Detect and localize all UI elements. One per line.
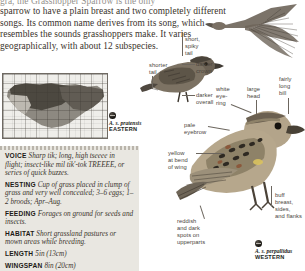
fact-text-wingspan: 8in (20cm) — [44, 262, 75, 270]
leader-yellow-bend-of-wing — [196, 153, 224, 154]
fact-label-length: LENGTH — [5, 250, 33, 257]
range-map — [2, 73, 108, 139]
subspecies-caption-eastern: A. s. pratensis EASTERN — [109, 112, 141, 133]
fact-voice: VOICESharp tik; long, high tseeee in fli… — [5, 152, 134, 178]
bird-field-guide-page: gra, the Grasshopper Sparrow is the only… — [0, 0, 305, 271]
label-shorter-tail: shorter tail — [149, 62, 167, 76]
fact-nesting: NESTINGCup of grass placed in clump of g… — [5, 181, 134, 207]
fact-wingspan: WINGSPAN8in (20cm) — [5, 262, 134, 271]
label-pale-eyebrow: pale eyebrow — [184, 122, 206, 136]
fact-habitat: HABITATShort grassland pastures or mown … — [5, 230, 134, 247]
globe-icon — [255, 240, 262, 247]
label-white-eye-ring: white eye- ring — [216, 86, 230, 107]
globe-icon — [109, 112, 116, 119]
leader-buff-breast — [271, 186, 272, 206]
fact-label-feeding: FEEDING — [5, 210, 36, 217]
label-reddish-dark-spots: reddish and dark spots on upperparts — [177, 218, 205, 246]
subspecies-region: EASTERN — [109, 126, 137, 132]
species-fact-panel: VOICESharp tik; long, high tseeee in fli… — [0, 146, 139, 271]
subspecies-caption-western: A. s. perpallidus WESTERN — [255, 240, 292, 261]
label-yellow-bend-of-wing: yellow at bend of wing — [168, 150, 188, 171]
leader-shorter-tail — [152, 76, 153, 89]
leader-darker-crown — [182, 64, 195, 65]
leader-fairly-long-bill — [288, 98, 289, 114]
fact-label-voice: VOICE — [5, 152, 27, 159]
fact-feeding: FEEDINGForages on ground for seeds and i… — [5, 210, 134, 227]
label-darker-crown: darker crown — [196, 61, 213, 75]
subspecies-scientific-name: A. s. pratensis — [109, 120, 141, 126]
fact-label-habitat: HABITAT — [5, 230, 34, 237]
map-grid-lines — [3, 74, 107, 138]
subspecies-region: WESTERN — [255, 254, 284, 260]
leader-large-head — [256, 100, 257, 114]
subspecies-scientific-name: A. s. perpallidus — [255, 248, 292, 254]
label-buff-breast: buff breast, sides, and flanks — [275, 192, 302, 220]
fact-text-length: 5in (13cm) — [35, 250, 66, 258]
fact-label-wingspan: WINGSPAN — [5, 262, 42, 269]
label-fairly-long-bill: fairly long bill — [279, 76, 292, 97]
leader-darker-overall — [182, 95, 195, 96]
fact-length: LENGTH5in (13cm) — [5, 250, 134, 259]
fact-label-nesting: NESTING — [5, 181, 36, 188]
label-large-head: large head — [247, 86, 260, 100]
